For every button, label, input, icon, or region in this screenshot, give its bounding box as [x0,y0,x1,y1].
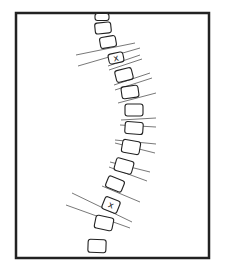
vertebra [95,14,109,21]
vertebra [114,67,133,83]
vertebra [114,157,135,174]
vertebra [105,175,125,192]
vertebra [121,139,141,155]
vertebra [94,215,114,231]
scoliosis-diagram: xx [0,0,225,271]
vertebra: x [101,196,121,214]
spine-illustration: xx [0,0,225,271]
vertebra [94,22,111,35]
vertebra [88,239,106,253]
cobb-line [121,118,156,120]
vertebra [125,104,143,116]
vertebra [125,121,144,134]
vertebra: x [108,52,125,65]
vertebra [121,85,140,99]
vertebra [99,35,117,49]
